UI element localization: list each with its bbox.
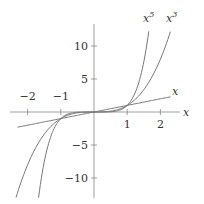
curves (16, 31, 170, 197)
y-tick-label: −10 (65, 172, 88, 185)
x-tick-label: 1 (124, 118, 131, 131)
label-x3: x3 (166, 10, 177, 25)
curve-x3 (16, 32, 170, 198)
y-tick-label: 10 (74, 40, 88, 53)
x-tick-label: −1 (53, 90, 69, 103)
x-tick-label: −2 (19, 90, 35, 103)
x-tick-label: 2 (157, 118, 164, 131)
axes (10, 24, 180, 198)
x-axis-label: x (183, 106, 190, 119)
label-x5: x5 (143, 10, 154, 25)
curve-labels: xx5x3x (143, 10, 190, 119)
y-tick-label: 5 (81, 73, 88, 86)
function-plot: −2−112105−5−10 xx5x3x (0, 0, 204, 204)
y-tick-label: −5 (72, 139, 88, 152)
label-x: x (172, 85, 179, 98)
